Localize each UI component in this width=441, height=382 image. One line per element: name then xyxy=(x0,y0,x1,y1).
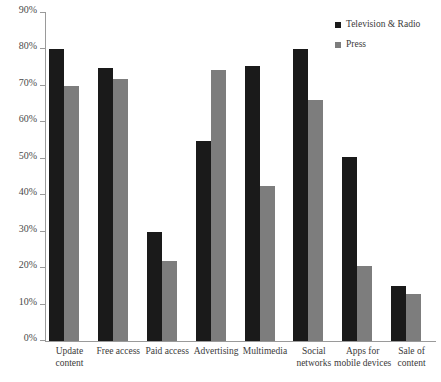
bar-television-radio xyxy=(196,141,211,341)
y-axis-tick-mark xyxy=(40,12,45,13)
bar-television-radio xyxy=(245,66,260,341)
y-axis-tick-mark xyxy=(40,194,45,195)
bar-group xyxy=(147,13,177,341)
y-axis-tick-mark xyxy=(40,340,45,341)
bar-chart: 0%10%20%30%40%50%60%70%80%90% Update con… xyxy=(0,0,441,382)
bar-television-radio xyxy=(98,68,113,341)
y-axis-tick-mark xyxy=(40,304,45,305)
y-axis-tick-label: 70% xyxy=(19,77,37,88)
legend-swatch-television-radio xyxy=(335,22,341,28)
bar-group xyxy=(245,13,275,341)
y-axis-tick-label: 40% xyxy=(19,186,37,197)
bar-press xyxy=(211,70,226,342)
x-axis-line xyxy=(45,341,436,342)
y-axis-tick-label: 0% xyxy=(24,332,37,343)
bar-press xyxy=(260,186,275,341)
bar-group xyxy=(293,13,323,341)
bar-television-radio xyxy=(342,157,357,341)
bar-television-radio xyxy=(391,286,406,341)
legend-item-television-radio: Television & Radio xyxy=(335,19,420,30)
legend-item-press: Press xyxy=(335,39,420,50)
plot-area: 0%10%20%30%40%50%60%70%80%90% xyxy=(45,13,436,341)
bar-television-radio xyxy=(49,49,64,341)
bar-television-radio xyxy=(293,49,308,341)
bar-press xyxy=(162,261,177,341)
y-axis-tick-label: 50% xyxy=(19,150,37,161)
y-axis-tick-mark xyxy=(40,267,45,268)
y-axis-tick-label: 10% xyxy=(19,296,37,307)
bar-group xyxy=(342,13,372,341)
bar-press xyxy=(357,266,372,341)
y-axis-tick-label: 60% xyxy=(19,113,37,124)
chart-legend: Television & Radio Press xyxy=(335,19,420,59)
y-axis-tick-mark xyxy=(40,85,45,86)
bar-group xyxy=(391,13,421,341)
bar-press xyxy=(64,86,79,341)
y-axis-tick-label: 30% xyxy=(19,223,37,234)
y-axis-tick-label: 80% xyxy=(19,40,37,51)
bar-group xyxy=(196,13,226,341)
bar-press xyxy=(406,294,421,341)
x-axis-category-label: Sale of content xyxy=(382,346,441,369)
y-axis-tick-mark xyxy=(40,48,45,49)
y-axis-tick-label: 90% xyxy=(19,4,37,15)
legend-swatch-press xyxy=(335,42,341,48)
bar-group xyxy=(49,13,79,341)
bar-group xyxy=(98,13,128,341)
y-axis-tick-mark xyxy=(40,121,45,122)
y-axis-tick-mark xyxy=(40,231,45,232)
bar-press xyxy=(308,100,323,341)
y-axis-tick-mark xyxy=(40,158,45,159)
y-axis-tick-label: 20% xyxy=(19,259,37,270)
legend-label-press: Press xyxy=(346,39,366,50)
bar-television-radio xyxy=(147,232,162,341)
legend-label-television-radio: Television & Radio xyxy=(346,19,420,30)
bar-press xyxy=(113,79,128,341)
